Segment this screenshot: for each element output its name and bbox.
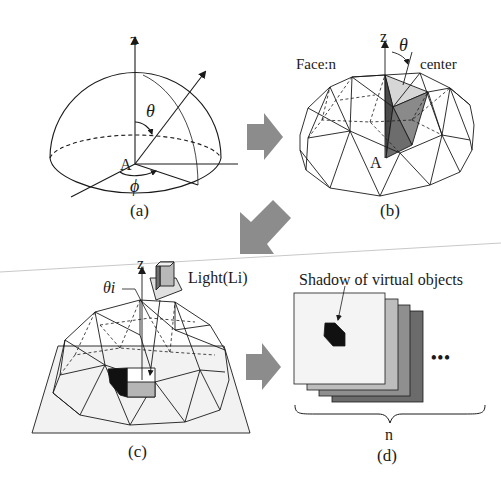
panel-c-light-label: Light(Li) (188, 270, 248, 286)
panel-b-theta-label: θ (399, 36, 408, 54)
panel-c-theta-i-label: θi (103, 280, 115, 296)
panel-b-face-label: Face:n (296, 57, 336, 72)
panel-a-theta-label: θ (146, 102, 155, 120)
panel-b-origin-label: A (370, 155, 382, 171)
arrow-a-to-b (247, 113, 283, 160)
arrow-b-to-c (240, 200, 291, 254)
figure-canvas (0, 0, 501, 484)
panel-b-center-label: center (420, 57, 457, 72)
panel-a-origin-label: A (120, 157, 132, 173)
arrow-c-to-d (246, 343, 281, 390)
panel-d-title: Shadow of virtual objects (299, 272, 463, 288)
panel-d-count-label: n (385, 427, 393, 443)
panel-d-ellipsis: ••• (431, 350, 451, 366)
panel-a-hemisphere (50, 38, 238, 197)
panel-d-shadow-stack (294, 286, 485, 423)
brace (295, 405, 485, 423)
panel-c-caption: (c) (128, 443, 147, 460)
panel-b-caption: (b) (380, 202, 400, 219)
panel-c-dome-with-light (32, 262, 250, 433)
panel-d-caption: (d) (377, 447, 397, 464)
panel-a-caption: (a) (130, 202, 149, 219)
panel-c-z-label: z (137, 256, 144, 272)
panel-b-z-label: z (380, 29, 387, 45)
panel-a-phi-label: ϕ (130, 177, 139, 195)
panel-a-z-label: z (130, 32, 137, 48)
